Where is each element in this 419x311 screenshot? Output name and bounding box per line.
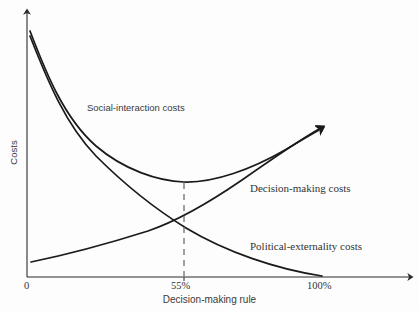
curve-label-social-interaction-costs: Social-interaction costs — [87, 103, 185, 113]
y-axis-title: Costs — [8, 131, 19, 175]
x-tick-label-100: 100% — [307, 281, 332, 292]
curve-label-decision-making-costs: Decision-making costs — [250, 183, 351, 194]
curve-label-political-externality-costs: Political-externality costs — [250, 241, 362, 252]
chart-plot-area — [0, 0, 419, 311]
x-axis-title: Decision-making rule — [0, 294, 419, 305]
chart-figure: Costs Decision-making rule 0 55% 100% So… — [0, 0, 419, 311]
x-tick-label-0: 0 — [24, 281, 29, 292]
x-tick-label-55: 55% — [171, 281, 190, 292]
